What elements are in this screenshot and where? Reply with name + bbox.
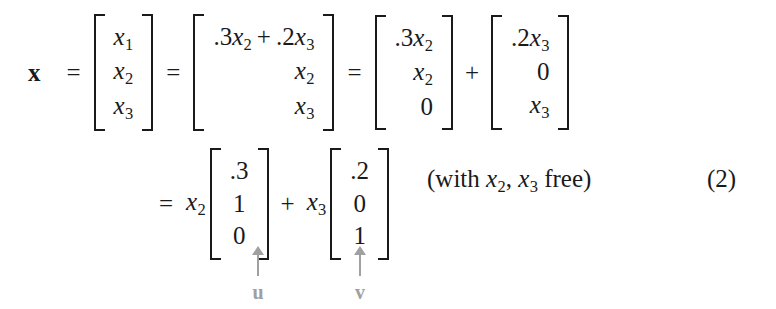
matrix-cell: 0 xyxy=(420,91,433,124)
matrix-cell: x3 xyxy=(114,90,134,124)
equals-sign-1: = xyxy=(67,59,81,87)
matrix-cell: x2 xyxy=(413,56,433,90)
equation-row-2: = x2 .3 1 0 + x3 .2 0 1 xyxy=(146,148,389,260)
annotation-u: u xyxy=(238,246,278,302)
matrix-cells: .3x2 x2 0 xyxy=(386,15,442,130)
note-open: (with xyxy=(427,165,486,192)
bracket-right-icon xyxy=(258,148,269,260)
scalar-coefficient-x3: x3 xyxy=(307,188,327,220)
equals-sign-4: = xyxy=(159,190,173,218)
bracket-left-icon xyxy=(330,148,341,260)
bracket-right-icon xyxy=(323,14,334,131)
matrix-cell: .2x3 xyxy=(511,22,549,56)
bracket-right-icon xyxy=(558,15,569,130)
matrix-cell: 0 xyxy=(353,188,366,221)
arrow-up-icon xyxy=(340,246,380,276)
matrix-cells: .2 0 1 xyxy=(341,148,378,260)
bracket-left-icon xyxy=(94,14,105,131)
annotation-label-v: v xyxy=(340,282,380,302)
matrix-cell: x2 xyxy=(114,55,134,89)
matrix-cell: 1 xyxy=(233,188,246,221)
matrix-cell: x3 xyxy=(295,90,315,124)
matrix-cell: x3 xyxy=(530,89,550,123)
matrix-cell: .2 xyxy=(350,155,369,188)
equation-display-block: x = x1 x2 x3 = .3x2+.2x3 x2 x3 = xyxy=(0,0,776,309)
matrix-cell: .3x2+.2x3 xyxy=(213,21,314,55)
matrix-cell: .3 xyxy=(230,155,249,188)
annotation-label-u: u xyxy=(238,282,278,302)
scalar-coefficient-x2: x2 xyxy=(186,188,206,220)
bracket-right-icon xyxy=(378,148,389,260)
free-variables-note: (with x2, x3 free) xyxy=(427,165,591,197)
matrix-cell: x2 xyxy=(295,55,315,89)
plus-sign-2: + xyxy=(281,190,295,218)
arrow-up-icon xyxy=(238,246,278,276)
matrix-cell: x1 xyxy=(114,21,134,55)
bracket-left-icon xyxy=(491,15,502,130)
bracket-left-icon xyxy=(193,14,204,131)
bracket-right-icon xyxy=(442,15,453,130)
equation-row-1: x = x1 x2 x3 = .3x2+.2x3 x2 x3 = xyxy=(28,14,569,131)
note-comma: , xyxy=(506,165,519,192)
matrix-expanded-solution: .3x2+.2x3 x2 x3 xyxy=(193,14,334,131)
bracket-left-icon xyxy=(210,148,221,260)
matrix-cells: .2x3 0 x3 xyxy=(502,15,558,130)
matrix-term-v: .2x3 0 x3 xyxy=(491,15,569,130)
vector-u: .3 1 0 xyxy=(210,148,269,260)
matrix-cells: .3 1 0 xyxy=(221,148,258,260)
matrix-cell: 0 xyxy=(537,56,550,89)
note-close: free) xyxy=(538,165,591,192)
vector-v: .2 0 1 xyxy=(330,148,389,260)
bracket-right-icon xyxy=(142,14,153,131)
plus-sign-1: + xyxy=(465,59,479,87)
equation-number: (2) xyxy=(707,165,736,193)
matrix-cell: .3x2 xyxy=(395,22,433,56)
equals-sign-3: = xyxy=(347,59,361,87)
matrix-x-components: x1 x2 x3 xyxy=(94,14,154,131)
annotation-v: v xyxy=(340,246,380,302)
matrix-cells: x1 x2 x3 xyxy=(105,14,143,131)
bracket-left-icon xyxy=(375,15,386,130)
vector-x-symbol: x xyxy=(28,59,41,87)
equals-sign-2: = xyxy=(166,59,180,87)
matrix-cells: .3x2+.2x3 x2 x3 xyxy=(204,14,323,131)
matrix-term-u: .3x2 x2 0 xyxy=(375,15,453,130)
